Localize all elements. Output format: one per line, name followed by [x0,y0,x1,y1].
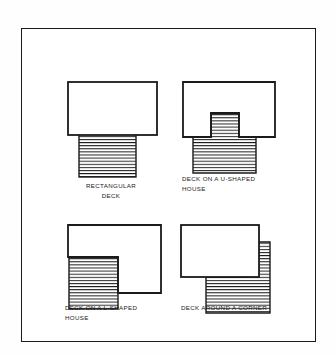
deck-shape [69,257,118,309]
u-shaped-house-drawing [179,77,287,183]
house-shape [68,82,157,135]
deck-shape [193,113,256,173]
house-shape [181,225,259,277]
caption-deck-around-a-corner: DECK AROUND A CORNER [181,303,305,313]
rectangular-deck-drawing [61,77,163,183]
drawing-frame: RECTANGULAR DECK DECK ON A U-SHAPED HOUS… [21,28,316,342]
caption-deck-on-an-l-shaped-house: DECK ON A L-SHAPED HOUSE [65,303,185,322]
deck-shape [79,134,136,177]
figure-deck-on-a-u-shaped-house [179,77,287,183]
drawing-page: RECTANGULAR DECK DECK ON A U-SHAPED HOUS… [0,0,336,355]
figure-rectangular-deck [61,77,163,183]
caption-rectangular-deck: RECTANGULAR DECK [63,181,159,200]
caption-deck-on-a-u-shaped-house: DECK ON A U-SHAPED HOUSE [182,174,300,193]
